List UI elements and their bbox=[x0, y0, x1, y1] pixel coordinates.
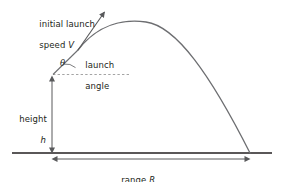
range-prefix: range bbox=[121, 175, 149, 183]
label-launch-angle: launch angle bbox=[74, 49, 114, 102]
launch-speed-symbol: V bbox=[68, 40, 74, 50]
launch-speed-line-2-prefix: speed bbox=[39, 40, 68, 50]
height-dimension-group bbox=[49, 76, 55, 154]
projectile-motion-diagram: initial launch speed V launch angle θ he… bbox=[0, 0, 285, 182]
launch-speed-line-1: initial launch bbox=[39, 19, 95, 29]
theta-angle-symbol: θ bbox=[60, 58, 65, 68]
label-range: range R bbox=[110, 164, 155, 182]
range-symbol: R bbox=[149, 175, 155, 183]
launch-angle-line-2: angle bbox=[85, 81, 109, 91]
range-dimension-group bbox=[52, 156, 251, 162]
launch-angle-line-1: launch bbox=[85, 60, 114, 70]
height-symbol: h bbox=[41, 135, 47, 145]
height-word: height bbox=[19, 114, 47, 124]
label-height: height h bbox=[8, 103, 46, 156]
